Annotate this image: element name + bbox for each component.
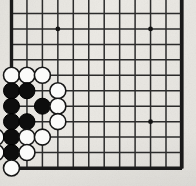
go-board-diagram: [0, 0, 196, 186]
white-stone: [50, 83, 66, 99]
black-stone: [4, 83, 20, 99]
black-stone: [4, 145, 20, 161]
white-stone: [34, 129, 50, 145]
white-stone: [4, 160, 20, 176]
black-stone: [4, 129, 20, 145]
stones: [0, 0, 196, 186]
black-stone: [4, 98, 20, 114]
black-stone: [34, 98, 50, 114]
white-stone: [19, 145, 35, 161]
white-stone: [34, 67, 50, 83]
white-stone: [19, 129, 35, 145]
black-stone: [19, 114, 35, 130]
white-stone: [50, 114, 66, 130]
white-stone: [19, 67, 35, 83]
white-stone: [50, 98, 66, 114]
white-stone: [4, 67, 20, 83]
black-stone: [4, 114, 20, 130]
black-stone: [19, 83, 35, 99]
